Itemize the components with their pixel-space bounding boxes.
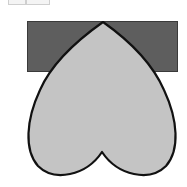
- partial-box-left: [8, 0, 26, 5]
- partial-box-right: [26, 0, 50, 5]
- diagram-canvas: [0, 0, 187, 187]
- diagram-svg: [0, 0, 187, 187]
